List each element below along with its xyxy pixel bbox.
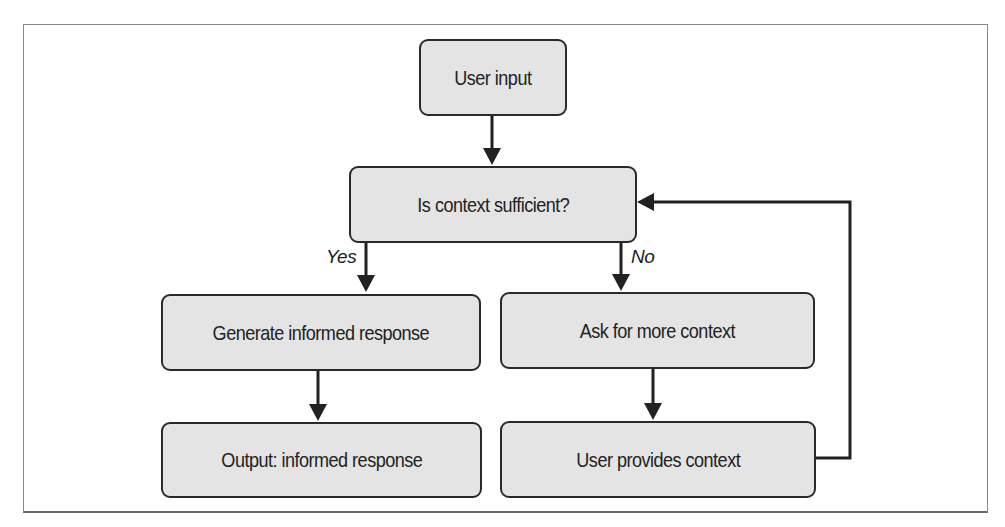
arrowhead-down-icon: [644, 403, 662, 420]
arrowhead-down-icon: [309, 404, 327, 421]
edge-user-input-to-decision: [483, 115, 501, 165]
arrowhead-down-icon: [483, 148, 501, 165]
node-generate-informed-response-label: Generate informed response: [213, 321, 429, 345]
node-user-input: User input: [419, 39, 567, 116]
node-is-context-sufficient-label: Is context sufficient?: [417, 193, 569, 217]
node-ask-for-more-context: Ask for more context: [500, 292, 815, 369]
arrowhead-down-icon: [612, 274, 630, 291]
node-generate-informed-response: Generate informed response: [161, 294, 481, 371]
node-user-provides-context-label: User provides context: [576, 448, 740, 472]
arrowhead-down-icon: [357, 275, 375, 292]
edge-label-no: No: [631, 246, 654, 268]
edge-label-yes: Yes: [326, 246, 356, 268]
node-is-context-sufficient: Is context sufficient?: [349, 166, 637, 243]
edge-yes-to-generate: [357, 242, 375, 292]
node-ask-for-more-context-label: Ask for more context: [580, 319, 735, 343]
node-output-informed-response-label: Output: informed response: [221, 448, 422, 472]
node-output-informed-response: Output: informed response: [161, 422, 482, 498]
edge-ask-to-user-provides: [644, 368, 662, 420]
edge-no-to-ask: [612, 242, 630, 291]
arrowhead-left-icon: [637, 193, 654, 211]
node-user-input-label: User input: [454, 66, 531, 90]
node-user-provides-context: User provides context: [500, 421, 816, 498]
edge-generate-to-output: [309, 370, 327, 421]
